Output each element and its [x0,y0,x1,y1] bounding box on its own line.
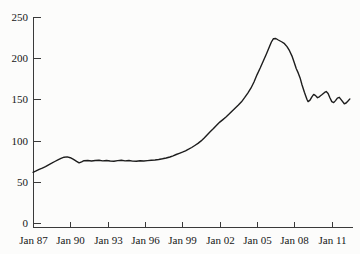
y-tick-label: 50 [17,176,29,188]
x-tick-label: Jan 08 [280,234,309,246]
x-tick-label: Jan 02 [206,234,234,246]
x-tick-label: Jan 93 [94,234,123,246]
y-tick-label: 150 [12,93,29,105]
x-tick-label: Jan 87 [19,234,48,246]
y-tick-label: 100 [12,135,29,147]
x-tick-label: Jan 05 [243,234,272,246]
line-chart-figure: 050100150200250Jan 87Jan 90Jan 93Jan 96J… [0,0,360,254]
y-tick-label: 250 [12,11,29,23]
x-tick-label: Jan 99 [168,234,197,246]
x-tick-label: Jan 90 [56,234,85,246]
x-tick-label: Jan 96 [131,234,160,246]
y-tick-label: 0 [23,217,29,229]
line-chart: 050100150200250Jan 87Jan 90Jan 93Jan 96J… [0,0,360,254]
y-tick-label: 200 [12,52,29,64]
chart-background [0,0,360,254]
x-tick-label: Jan 11 [318,234,346,246]
